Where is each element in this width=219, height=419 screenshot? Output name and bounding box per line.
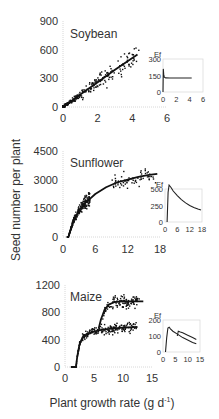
data-point: [151, 176, 152, 177]
data-point: [112, 76, 113, 77]
y-tick-label: 1500: [34, 202, 58, 214]
inset-y-tick: 300: [148, 55, 161, 64]
x-tick-label: 4: [129, 112, 135, 124]
data-point: [111, 306, 112, 307]
data-point: [84, 339, 85, 340]
data-point: [86, 85, 87, 86]
inset-y-tick: 250: [150, 202, 163, 211]
data-point: [133, 324, 134, 325]
data-point: [141, 173, 142, 174]
inset-x-tick: 6: [201, 95, 205, 104]
inset-frame: [163, 59, 203, 92]
data-point: [129, 333, 130, 334]
data-point: [127, 323, 128, 324]
data-point: [117, 299, 118, 300]
data-point: [124, 297, 125, 298]
data-point: [147, 176, 148, 177]
inset-x-tick: 4: [188, 95, 192, 104]
data-point: [138, 50, 139, 51]
data-point: [145, 173, 146, 174]
data-point: [105, 70, 106, 71]
x-tick-label: 2: [95, 112, 101, 124]
inset-x-tick: 10: [183, 355, 191, 364]
data-point: [126, 325, 127, 326]
data-point: [89, 83, 90, 84]
data-point: [122, 69, 123, 70]
data-point: [100, 84, 101, 85]
data-point: [126, 304, 127, 305]
data-point: [81, 202, 82, 203]
panel-sunflower: 0150030004500061218SunflowerEf0250500061…: [34, 145, 207, 255]
data-point: [108, 79, 109, 80]
data-point: [131, 328, 132, 329]
data-point: [75, 212, 76, 213]
inset-x-tick: 18: [198, 225, 206, 234]
panel-soybean: 03006009000246SoybeanEf01503000246: [40, 15, 205, 124]
data-point: [102, 331, 103, 332]
data-point: [94, 329, 95, 330]
data-point: [103, 83, 104, 84]
data-point: [119, 326, 120, 327]
data-point: [121, 329, 122, 330]
data-point: [112, 308, 113, 309]
data-point: [119, 68, 120, 69]
data-point: [131, 299, 132, 300]
data-point: [127, 324, 128, 325]
data-point: [84, 208, 85, 209]
data-point: [112, 307, 113, 308]
data-point: [141, 179, 142, 180]
data-point: [109, 77, 110, 78]
data-point: [117, 298, 118, 299]
data-point: [116, 323, 117, 324]
data-point: [117, 60, 118, 61]
data-point: [97, 77, 98, 78]
data-point: [121, 74, 122, 75]
data-point: [134, 298, 135, 299]
data-point: [136, 182, 137, 183]
data-point: [112, 299, 113, 300]
data-point: [129, 322, 130, 323]
data-point: [116, 305, 117, 306]
inset-x-tick: 0: [161, 355, 165, 364]
data-point: [133, 180, 134, 181]
data-point: [85, 199, 86, 200]
data-point: [139, 298, 140, 299]
data-point: [121, 184, 122, 185]
data-point: [121, 295, 122, 296]
inset-frame: [163, 320, 200, 352]
data-point: [77, 216, 78, 217]
data-point: [95, 333, 96, 334]
y-tick-label: 1200: [36, 279, 60, 291]
data-point: [125, 183, 126, 184]
data-point: [104, 334, 105, 335]
data-point: [75, 99, 76, 100]
inset-y-tick: 200: [148, 316, 161, 325]
data-point: [136, 296, 137, 297]
y-tick-label: 3000: [34, 174, 58, 186]
data-point: [108, 327, 109, 328]
data-point: [88, 192, 89, 193]
data-point: [101, 327, 102, 328]
data-point: [74, 96, 75, 97]
y-axis-label: Seed number per plant: [9, 138, 23, 261]
data-point: [149, 178, 150, 179]
y-tick-label: 4500: [34, 145, 58, 157]
data-point: [124, 325, 125, 326]
inset-x-tick: 15: [196, 355, 204, 364]
data-point: [134, 324, 135, 325]
data-point: [82, 333, 83, 334]
data-point: [75, 219, 76, 220]
inset-y-tick: 100: [148, 332, 161, 341]
data-point: [94, 327, 95, 328]
data-point: [84, 206, 85, 207]
panel-title: Maize: [70, 290, 102, 304]
x-tick-label: 0: [60, 243, 66, 255]
y-tick-label: 800: [42, 306, 60, 318]
data-point: [115, 180, 116, 181]
data-point: [121, 325, 122, 326]
x-tick-label: 0: [60, 112, 66, 124]
data-point: [134, 48, 135, 49]
data-point: [93, 90, 94, 91]
data-point: [135, 322, 136, 323]
data-point: [90, 91, 91, 92]
